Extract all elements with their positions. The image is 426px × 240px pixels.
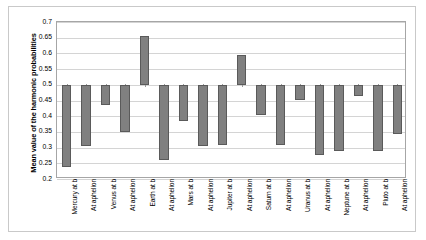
bar xyxy=(62,85,72,167)
bar xyxy=(218,85,228,145)
y-axis-tick-label: 0.5 xyxy=(22,80,52,87)
y-axis-tick-label: 0.25 xyxy=(22,159,52,166)
x-axis-tick-label: At aphelion xyxy=(206,179,216,231)
y-axis-tick-label: 0.35 xyxy=(22,127,52,134)
bar xyxy=(373,85,383,152)
y-axis-tick-label: 0.65 xyxy=(22,33,52,40)
chart-frame: Mean value of the harmonic probabilities… xyxy=(8,6,416,232)
bar xyxy=(393,85,403,134)
x-axis-tick-label: At aphelion xyxy=(323,179,333,231)
bar xyxy=(256,85,266,115)
x-axis-tick-label: Mars at b xyxy=(186,179,196,231)
bar xyxy=(276,85,286,145)
y-axis-tick-label: 0.6 xyxy=(22,49,52,56)
bar xyxy=(237,55,247,85)
x-axis-tick-label: Uranus at b xyxy=(303,179,313,231)
bar xyxy=(354,85,364,97)
x-axis-tick-label: Jupiter at b xyxy=(225,179,235,231)
x-axis-tick-label: At aphelion xyxy=(167,179,177,231)
y-axis-tick-label: 0.3 xyxy=(22,143,52,150)
y-axis-tick-label: 0.55 xyxy=(22,65,52,72)
y-axis-tick-label: 0.4 xyxy=(22,112,52,119)
x-axis-tick-label: Earth at b xyxy=(148,179,158,231)
bar xyxy=(101,85,111,105)
bar xyxy=(179,85,189,121)
x-axis-tick-label: At aphelion xyxy=(128,179,138,231)
bar xyxy=(140,36,150,85)
bars-layer xyxy=(57,22,405,177)
x-axis-tick-label: At aphelion xyxy=(284,179,294,231)
x-axis-tick-label: At aphelion xyxy=(361,179,371,231)
bar xyxy=(81,85,91,146)
bar xyxy=(120,85,130,132)
bar xyxy=(334,85,344,152)
x-axis-tick-labels: Mercury at bAt aphelionVenus at bAt aphe… xyxy=(56,179,406,231)
plot-area xyxy=(56,21,406,178)
x-axis-tick-label: At aphelion xyxy=(400,179,410,231)
bar xyxy=(315,85,325,155)
x-axis-tick-label: Venus at b xyxy=(109,179,119,231)
bar xyxy=(295,85,305,101)
bar xyxy=(159,85,169,160)
y-axis-tick-label: 0.45 xyxy=(22,96,52,103)
x-axis-tick-label: Mercury at b xyxy=(70,179,80,231)
y-axis-tick-label: 0.2 xyxy=(22,175,52,182)
x-axis-tick-label: Pluto at b xyxy=(381,179,391,231)
x-axis-tick-label: Neptune at b xyxy=(342,179,352,231)
y-axis-tick-label: 0.7 xyxy=(22,18,52,25)
x-axis-tick-label: Saturn at b xyxy=(264,179,274,231)
x-axis-tick-label: At aphelion xyxy=(245,179,255,231)
x-axis-tick-label: At aphelion xyxy=(89,179,99,231)
bar xyxy=(198,85,208,146)
